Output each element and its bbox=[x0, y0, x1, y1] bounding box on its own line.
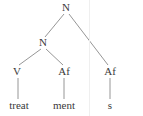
node-verb-v: V bbox=[13, 66, 21, 77]
edge-inner-n-to-affix-ment bbox=[46, 49, 63, 65]
node-root-n: N bbox=[62, 2, 70, 13]
column-divider bbox=[89, 0, 90, 116]
leaf-treat: treat bbox=[9, 100, 29, 111]
node-inner-n: N bbox=[39, 37, 47, 48]
edge-inner-n-to-verb bbox=[19, 49, 41, 65]
leaf-ment: ment bbox=[53, 100, 75, 111]
leaf-s: s bbox=[108, 100, 112, 111]
node-affix-ment: Af bbox=[58, 66, 70, 77]
edge-root-to-inner-n bbox=[45, 14, 64, 37]
node-affix-s: Af bbox=[104, 66, 116, 77]
morphological-tree-figure: N N V Af Af treat ment s bbox=[0, 0, 143, 116]
